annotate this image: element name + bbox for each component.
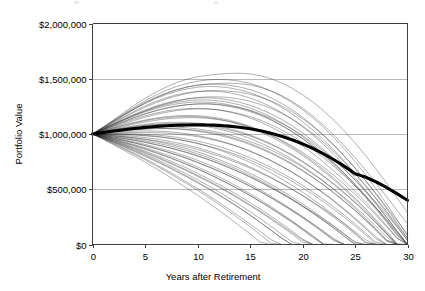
chart-background (0, 0, 425, 291)
x-tick-label: 20 (298, 251, 309, 262)
scan-artifact-right (214, 1, 218, 4)
x-tick-label: 15 (245, 251, 256, 262)
scan-artifact-left (74, 1, 79, 4)
y-tick-label: $1,000,000 (39, 129, 87, 140)
x-tick-label: 0 (91, 251, 96, 262)
x-tick-label: 10 (193, 251, 204, 262)
chart-canvas: $0$500,000$1,000,000$1,500,000$2,000,000… (0, 0, 425, 291)
y-tick-label: $500,000 (47, 184, 87, 195)
x-axis-title: Years after Retirement (166, 271, 261, 282)
retirement-monte-carlo-chart: $0$500,000$1,000,000$1,500,000$2,000,000… (0, 0, 425, 291)
y-tick-label: $2,000,000 (39, 19, 87, 30)
y-tick-label: $0 (76, 240, 87, 251)
x-tick-label: 30 (403, 251, 414, 262)
y-axis-title: Portfolio Value (13, 103, 24, 164)
y-tick-label: $1,500,000 (39, 74, 87, 85)
x-tick-label: 5 (143, 251, 148, 262)
x-tick-label: 25 (350, 251, 361, 262)
